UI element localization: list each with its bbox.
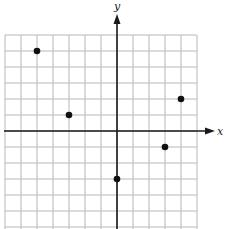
data-point: [178, 96, 185, 103]
y-axis-label: y: [113, 0, 121, 13]
grid-lines: [5, 35, 197, 229]
x-axis-label: x: [217, 125, 224, 138]
y-axis-arrow-icon: [114, 14, 121, 24]
data-point: [66, 112, 73, 119]
data-point: [34, 48, 41, 55]
coordinate-plane: x y: [0, 0, 225, 229]
data-point: [162, 144, 169, 151]
data-point: [114, 176, 121, 183]
x-axis-arrow-icon: [205, 128, 215, 135]
